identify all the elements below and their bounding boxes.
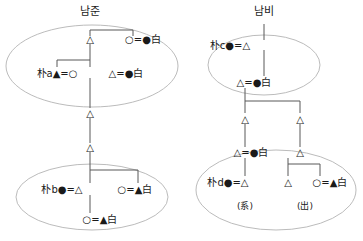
node-left-gen1-couple: ○=●白 <box>125 34 161 45</box>
genealogy-diagram-canvas: 남준 남비 △ ○=●白 朴a▲=○ △=●白 △ △ 朴b●=△ ○=▲白 ○… <box>0 0 363 241</box>
node-right-gen2-couple-baek: △=●白 <box>237 77 272 88</box>
node-left-gen5-couple-park-b: 朴b●=△ <box>41 184 82 195</box>
node-right-gen5-son: △ <box>284 177 292 188</box>
node-left-gen5-couple-baek: ○=▲白 <box>118 184 153 195</box>
ellipse-nambi-lower <box>196 150 356 230</box>
title-nambi: 남비 <box>254 6 274 18</box>
node-right-gen5-couple-park-d: 朴d●=△ <box>207 177 248 188</box>
group-connectors <box>57 24 320 213</box>
node-right-gen4-son-right: △ <box>296 147 304 158</box>
annotation-chul: (出) <box>297 199 313 212</box>
node-left-gen2-couple-park-a: 朴a▲=○ <box>37 68 78 79</box>
annotation-gye: (系) <box>237 199 253 212</box>
node-right-gen5-couple-baek: ○=▲白 <box>313 177 348 188</box>
title-namjun: 남준 <box>80 6 100 18</box>
node-left-gen4-son: △ <box>86 142 94 153</box>
node-left-gen1-sibling: △ <box>86 34 94 45</box>
node-right-gen3-son-right: △ <box>296 114 304 125</box>
node-right-gen3-son-left: △ <box>241 114 249 125</box>
node-left-gen6-couple-baek: ○=▲白 <box>83 214 118 225</box>
node-left-gen3-son: △ <box>86 108 94 119</box>
node-right-gen1-couple-park-c: 朴c●=△ <box>210 40 250 51</box>
node-right-gen4-couple-baek: △=●白 <box>234 147 269 158</box>
node-left-gen2-couple-baek: △=●白 <box>109 68 144 79</box>
